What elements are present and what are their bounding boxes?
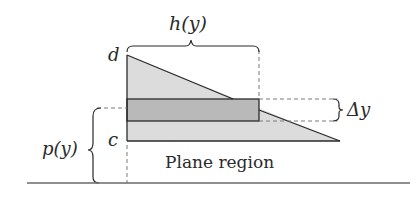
label-c: c bbox=[108, 129, 118, 150]
horizontal-strip bbox=[127, 99, 259, 121]
plane-region-diagram: h(y) d c p(y) Δy Plane region bbox=[0, 0, 416, 200]
label-p: p(y) bbox=[42, 138, 78, 159]
label-delta-y: Δy bbox=[346, 99, 371, 120]
label-h: h(y) bbox=[169, 12, 207, 34]
label-d: d bbox=[108, 44, 120, 65]
h-brace bbox=[127, 40, 259, 52]
label-plane-region: Plane region bbox=[165, 152, 274, 172]
delta-y-brace bbox=[333, 99, 343, 121]
p-brace bbox=[88, 108, 101, 183]
